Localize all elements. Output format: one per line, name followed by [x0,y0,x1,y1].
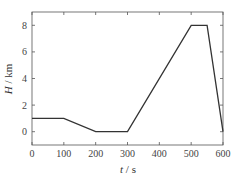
axis-ticks: 010020030040050060002468 [22,12,231,159]
y-tick-label: 2 [22,100,27,111]
plot-border [32,12,223,145]
plot-frame [32,12,223,145]
y-tick-label: 4 [22,73,27,84]
y-axis-label: H / km [2,63,14,95]
y-tick-label: 0 [22,126,27,137]
x-axis-label: t / s [120,163,136,175]
x-tick-label: 300 [120,148,135,159]
x-tick-label: 200 [88,148,103,159]
y-tick-label: 8 [22,20,27,31]
data-series [32,25,223,131]
x-tick-label: 500 [184,148,199,159]
y-tick-label: 6 [22,46,27,57]
x-tick-label: 600 [216,148,231,159]
x-tick-label: 0 [30,148,35,159]
x-tick-label: 100 [56,148,71,159]
line-chart: 010020030040050060002468 H / km t / s [0,0,239,183]
x-tick-label: 400 [152,148,167,159]
series-line [32,25,223,131]
